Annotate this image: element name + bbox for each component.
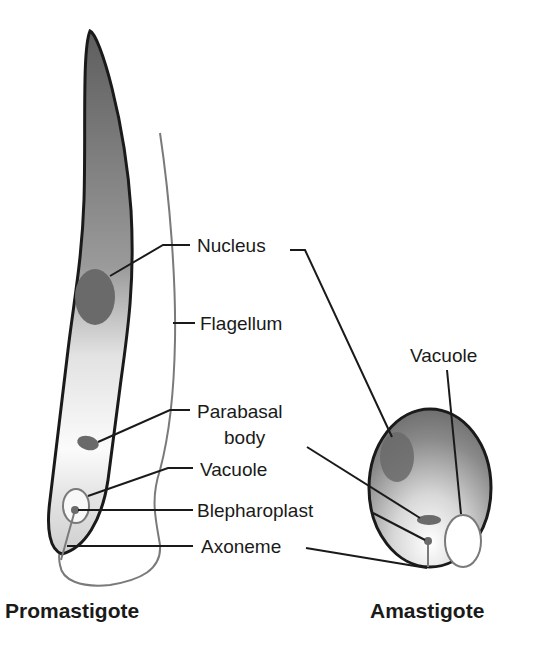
label-parabasal-line1: Parabasal	[197, 401, 283, 422]
promastigote-group: Nucleus Flagellum Parabasal body Vacuole…	[5, 31, 314, 622]
amastigote-blepharoplast	[424, 537, 432, 545]
amastigote-title: Amastigote	[370, 599, 484, 622]
label-axoneme: Axoneme	[201, 536, 281, 557]
leader-nucleus-amastigote	[290, 250, 392, 437]
label-vacuole: Vacuole	[200, 459, 267, 480]
label-parabasal-line2: body	[224, 427, 266, 448]
label-nucleus: Nucleus	[197, 235, 266, 256]
amastigote-vacuole	[445, 515, 481, 567]
nucleus	[75, 269, 115, 325]
vacuole	[63, 489, 89, 523]
label-flagellum: Flagellum	[200, 313, 282, 334]
blepharoplast	[71, 506, 79, 514]
amastigote-nucleus	[380, 432, 414, 482]
label-blepharoplast: Blepharoplast	[197, 500, 314, 521]
label-vacuole-amastigote: Vacuole	[410, 345, 477, 366]
leishmania-life-forms-diagram: Nucleus Flagellum Parabasal body Vacuole…	[0, 0, 539, 649]
amastigote-group: Vacuole Amastigote	[290, 250, 491, 622]
promastigote-title: Promastigote	[5, 599, 139, 622]
amastigote-parabasal-body	[417, 515, 441, 525]
